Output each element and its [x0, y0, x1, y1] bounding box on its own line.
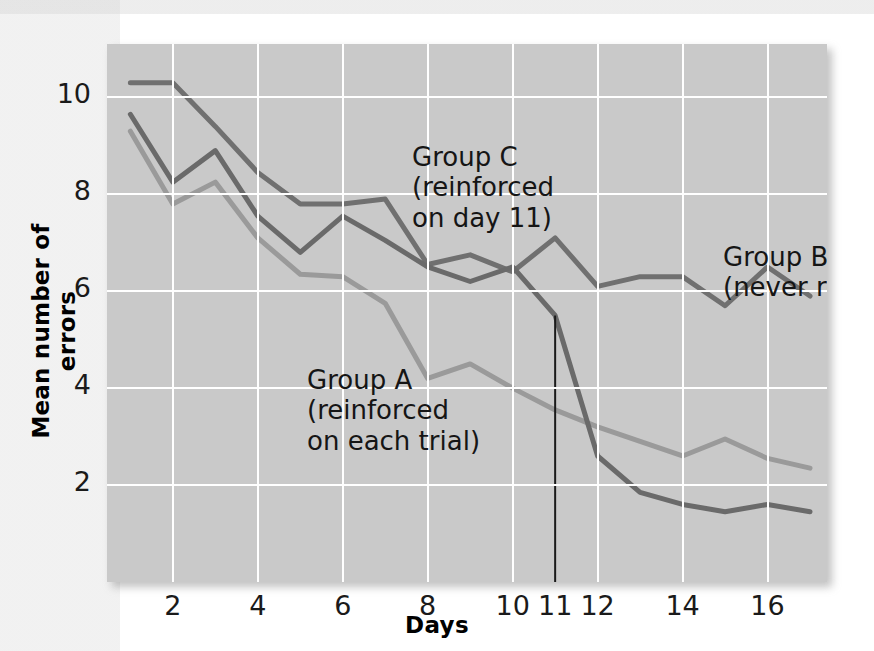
- annotation-group-a: Group A(reinforcedon each trial): [307, 365, 480, 456]
- gridline-vertical: [512, 44, 514, 582]
- gridline-vertical: [427, 44, 429, 582]
- annotation-group-b-line-1: Group B: [723, 242, 827, 272]
- annotation-group-c-line-2: (reinforced: [412, 172, 554, 202]
- gridline-horizontal: [107, 484, 827, 486]
- annotation-group-c-line-3: on day 11): [412, 203, 554, 233]
- gridline-vertical: [682, 44, 684, 582]
- gridline-vertical: [172, 44, 174, 582]
- gridline-vertical: [257, 44, 259, 582]
- annotation-group-c: Group C(reinforcedon day 11): [412, 142, 554, 233]
- gridline-vertical: [597, 44, 599, 582]
- gridline-horizontal: [107, 96, 827, 98]
- plot-area: Group C(reinforcedon day 11)Group B(neve…: [107, 44, 827, 582]
- gridline-vertical: [342, 44, 344, 582]
- y-tick-label-10: 10: [0, 78, 91, 109]
- annotation-group-c-line-1: Group C: [412, 142, 554, 172]
- x-axis-title: Days: [0, 612, 874, 638]
- annotation-group-a-line-2: (reinforced: [307, 395, 480, 425]
- series-layer: [107, 44, 827, 582]
- gridline-horizontal: [107, 290, 827, 292]
- annotation-group-b: Group B(never reinforced): [723, 242, 827, 303]
- annotation-group-b-line-2: (never reinforced): [723, 272, 827, 302]
- figure-container: Group C(reinforcedon day 11)Group B(neve…: [0, 0, 874, 651]
- y-axis-title: Mean number of errors: [28, 181, 80, 481]
- annotation-group-a-line-3: on each trial): [307, 426, 480, 456]
- annotation-group-a-line-1: Group A: [307, 365, 480, 395]
- gridline-vertical: [767, 44, 769, 582]
